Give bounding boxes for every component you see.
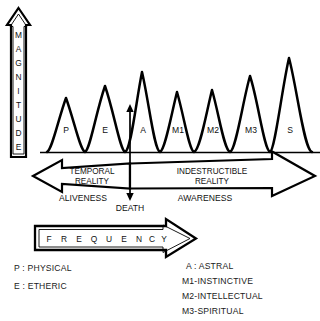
wave-label-s: S xyxy=(287,125,293,135)
double-headed-vertical-arrow-icon-up xyxy=(126,104,133,112)
indestructible-reality-arrow-group: INDESTRUCTIBLE REALITY AWARENESS xyxy=(130,152,315,204)
legend-item-intellectual: M2-INTELLECTUAL xyxy=(182,291,263,301)
temporal-reality-line2: REALITY xyxy=(75,177,110,186)
left-arrow-icon xyxy=(33,160,130,192)
frequency-letter-f: F xyxy=(46,234,51,244)
wave-label-m1: M1 xyxy=(172,125,184,135)
magnitude-letter-d: D xyxy=(15,128,21,138)
temporal-reality-arrow-group: TEMPORAL REALITY ALIVENESS xyxy=(33,160,130,203)
magnitude-axis: M A G N I T U D E xyxy=(7,8,30,157)
legend-item-etheric: E : ETHERIC xyxy=(14,281,67,291)
awareness-label: AWARENESS xyxy=(178,193,233,203)
legend-item-astral: A : ASTRAL xyxy=(186,261,233,271)
frequency-letter-n: N xyxy=(136,234,142,244)
legend-item-instinctive: M1-INSTINCTIVE xyxy=(182,276,253,286)
legend-item-physical: P : PHYSICAL xyxy=(14,263,72,273)
magnitude-letter-g: G xyxy=(15,58,22,68)
wave-label-e: E xyxy=(102,125,108,135)
wave-label-a: A xyxy=(140,125,146,135)
frequency-letter-c: C xyxy=(149,234,155,244)
frequency-letter-e1: E xyxy=(76,234,82,244)
frequency-letter-q: Q xyxy=(91,234,98,244)
frequency-letter-r: R xyxy=(61,234,67,244)
temporal-reality-line1: TEMPORAL xyxy=(69,167,114,176)
death-label: DEATH xyxy=(116,203,145,213)
frequency-letter-y: Y xyxy=(161,234,167,244)
wave-label-m3: M3 xyxy=(245,125,257,135)
legend-item-spiritual: M3-SPIRITUAL xyxy=(182,306,244,316)
wave-curve xyxy=(47,58,312,152)
frequency-letter-e2: E xyxy=(121,234,127,244)
right-arrow-icon-frequency xyxy=(35,219,196,257)
double-headed-vertical-arrow-icon-down xyxy=(126,193,133,201)
wave-label-m2: M2 xyxy=(207,125,219,135)
frequency-axis: F R E Q U E N C Y xyxy=(35,219,196,257)
magnitude-letter-a: A xyxy=(16,44,22,54)
magnitude-letter-i: I xyxy=(17,86,19,96)
magnitude-letter-n: N xyxy=(15,72,21,82)
magnitude-letter-e: E xyxy=(16,142,22,152)
wave-label-p: P xyxy=(63,125,69,135)
indestructible-reality-line1: INDESTRUCTIBLE xyxy=(177,167,248,176)
magnitude-letter-m: M xyxy=(15,30,22,40)
indestructible-reality-line2: REALITY xyxy=(195,177,230,186)
magnitude-letter-t: T xyxy=(16,100,21,110)
wave-curve-group: P E A M1 M2 M3 S xyxy=(40,58,320,153)
aliveness-label: ALIVENESS xyxy=(59,193,107,203)
frequency-letter-u: U xyxy=(106,234,112,244)
magnitude-letter-u: U xyxy=(15,114,21,124)
